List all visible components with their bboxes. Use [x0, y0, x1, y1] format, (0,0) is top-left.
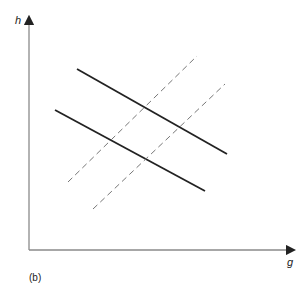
lower-solid-line	[55, 110, 205, 191]
diagram-canvas	[0, 0, 307, 297]
panel-label: (b)	[29, 272, 41, 283]
y-axis-label: h	[15, 14, 21, 26]
x-axis-label: g	[287, 256, 293, 268]
upper-solid-line	[77, 69, 227, 154]
